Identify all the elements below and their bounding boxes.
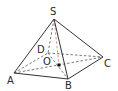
pyramid-diagram: S A B C D O [0,0,118,91]
edge-SD [48,19,54,53]
point-O-marker [58,64,61,67]
hidden-edges [14,19,103,79]
label-D: D [37,44,45,55]
label-S: S [50,6,56,17]
edge-AB [14,73,68,79]
label-A: A [7,75,14,86]
height-SO [54,19,59,65]
label-O: O [43,56,51,67]
label-B: B [65,80,72,91]
edge-DC [48,53,103,57]
visible-edges [14,19,103,79]
label-C: C [104,58,111,69]
